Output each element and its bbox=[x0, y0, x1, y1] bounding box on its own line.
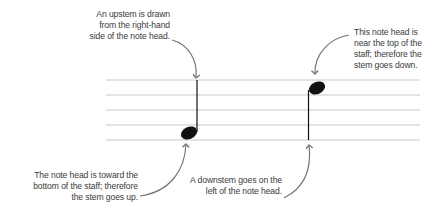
staff bbox=[106, 80, 420, 140]
arrow-downstem bbox=[284, 145, 310, 198]
annotation-line: A downstem goes on the bbox=[190, 175, 282, 186]
annotation-line: The note head is toward the bbox=[33, 170, 138, 181]
annotation-top-note: This note head is near the top of the st… bbox=[354, 27, 422, 71]
annotation-line: left of the note head. bbox=[190, 186, 282, 197]
annotation-line: stem goes down. bbox=[354, 60, 422, 71]
note-head-low bbox=[179, 124, 199, 142]
high-note-downstem bbox=[307, 79, 327, 140]
annotation-upstem: An upstem is drawn from the right-hand s… bbox=[90, 9, 170, 42]
annotation-line: the stem goes up. bbox=[33, 192, 138, 203]
annotation-line: staff; therefore the bbox=[354, 49, 422, 60]
annotation-line: from the right-hand bbox=[90, 20, 170, 31]
arrow-bottom-note bbox=[140, 144, 186, 196]
arrow-upstem bbox=[172, 40, 196, 78]
annotation-line: bottom of the staff; therefore bbox=[33, 181, 138, 192]
annotation-downstem: A downstem goes on the left of the note … bbox=[190, 175, 282, 197]
low-note-upstem bbox=[179, 80, 199, 142]
annotation-line: near the top of the bbox=[354, 38, 422, 49]
annotation-line: An upstem is drawn bbox=[90, 9, 170, 20]
note-head-high bbox=[307, 79, 327, 97]
arrow-top-note bbox=[315, 35, 349, 74]
annotation-line: side of the note head. bbox=[90, 31, 170, 42]
annotation-bottom-note: The note head is toward the bottom of th… bbox=[33, 170, 138, 203]
annotation-line: This note head is bbox=[354, 27, 422, 38]
stem-direction-diagram: An upstem is drawn from the right-hand s… bbox=[0, 0, 444, 216]
